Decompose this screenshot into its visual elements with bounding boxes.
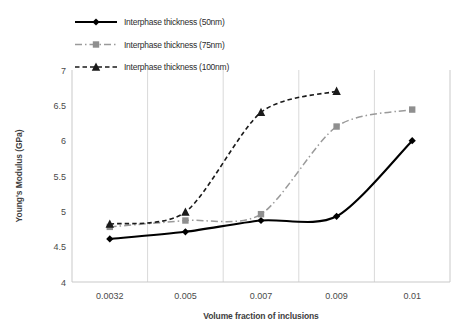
legend-item-1[interactable]: Interphase thickness (50nm) [75, 17, 225, 27]
x-tick-label: 0.009 [325, 291, 348, 301]
legend-item-label: Interphase thickness (75nm) [124, 40, 225, 50]
legend-marker-square-icon [93, 41, 99, 47]
chart-container: 76.565.554.54 0.00320.0050.0070.0090.01 … [0, 0, 465, 331]
y-tick-label: 4 [61, 278, 66, 288]
y-tick-label: 7 [61, 66, 66, 76]
data-point-marker [258, 211, 264, 217]
y-axis-title: Young's Modulus (GPa) [14, 129, 24, 222]
legend-item-label: Interphase thickness (50nm) [124, 17, 225, 27]
data-point-marker [333, 123, 339, 129]
x-tick-label: 0.01 [403, 291, 421, 301]
plot-background [72, 70, 450, 282]
y-tick-label: 6.5 [53, 101, 66, 111]
y-axis-tick-labels: 76.565.554.54 [53, 66, 66, 288]
data-point-marker [182, 217, 188, 223]
x-tick-label: 0.0032 [96, 291, 124, 301]
data-point-marker [409, 106, 415, 112]
legend-item-2[interactable]: Interphase thickness (75nm) [75, 40, 225, 50]
y-tick-label: 6 [61, 136, 66, 146]
y-tick-label: 5 [61, 207, 66, 217]
chart-legend: Interphase thickness (50nm)Interphase th… [75, 17, 229, 72]
y-tick-label: 5.5 [53, 172, 66, 182]
y-tick-label: 4.5 [53, 242, 66, 252]
x-tick-label: 0.007 [250, 291, 273, 301]
legend-marker-diamond-icon [92, 18, 99, 25]
legend-item-label: Interphase thickness (100nm) [124, 62, 229, 72]
x-axis-tick-labels: 0.00320.0050.0070.0090.01 [96, 291, 421, 301]
x-tick-label: 0.005 [174, 291, 197, 301]
x-axis-title: Volume fraction of inclusions [203, 311, 319, 321]
